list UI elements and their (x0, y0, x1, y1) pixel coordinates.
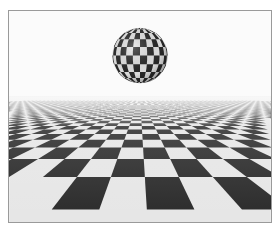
render-frame (8, 10, 272, 223)
rendered-scene (9, 11, 271, 222)
